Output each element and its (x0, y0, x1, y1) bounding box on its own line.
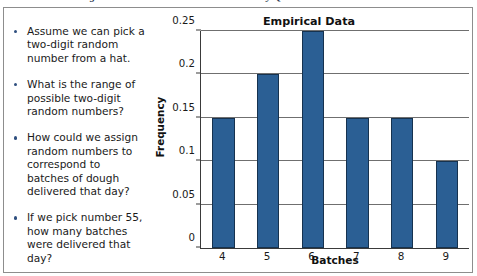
bar (302, 31, 324, 248)
bullet-text: If we pick number 55, how many batches w… (27, 211, 142, 263)
y-tick-label: 0.1 (179, 145, 195, 156)
bullet-dot-icon (14, 216, 17, 219)
list-item: What is the range of possible two-digit … (13, 78, 145, 118)
y-tick-label: 0 (189, 232, 195, 243)
list-item: If we pick number 55, how many batches w… (13, 211, 145, 265)
bar (212, 118, 234, 248)
bullet-text: Assume we can pick a two-digit random nu… (27, 25, 145, 64)
y-axis-label: Frequency (154, 87, 166, 167)
bar (391, 118, 413, 248)
bar-slot (335, 31, 380, 248)
list-item: How could we assign random numbers to co… (13, 131, 145, 198)
bullet-dot-icon (14, 136, 17, 139)
bar-slot (246, 31, 291, 248)
bar-chart: Empirical Data Frequency 00.050.10.150.2… (145, 9, 473, 273)
y-tick-label: 0.05 (172, 188, 195, 199)
bar (436, 161, 458, 248)
bullet-dot-icon (14, 30, 17, 33)
bullet-text: How could we assign random numbers to co… (27, 131, 138, 197)
figure-caption-text: FIGURE 9.12 Using Random Numbers to Simu… (4, 0, 320, 2)
plot-area: 00.050.10.150.20.25 (200, 31, 469, 249)
bullet-dot-icon (14, 83, 17, 86)
bar (257, 74, 279, 248)
bullet-list: Assume we can pick a two-digit random nu… (13, 25, 145, 265)
bar (346, 118, 368, 248)
bar-series (201, 31, 469, 248)
content-frame: Assume we can pick a two-digit random nu… (3, 7, 473, 273)
y-tick-label: 0.15 (172, 101, 195, 112)
y-tick-label: 0.25 (172, 15, 195, 26)
x-axis-label: Batches (200, 254, 470, 266)
bar-slot (424, 31, 469, 248)
list-item: Assume we can pick a two-digit random nu… (13, 25, 145, 65)
y-tick-label: 0.2 (179, 58, 195, 69)
bar-slot (290, 31, 335, 248)
figure-caption-clipped: FIGURE 9.12 Using Random Numbers to Simu… (0, 0, 477, 6)
figure-panel: FIGURE 9.12 Using Random Numbers to Simu… (0, 0, 477, 276)
bar-slot (201, 31, 246, 248)
bar-slot (380, 31, 425, 248)
bullet-text: What is the range of possible two-digit … (27, 78, 135, 117)
